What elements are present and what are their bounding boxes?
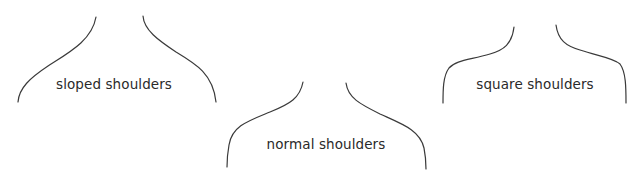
- sloped-shoulders-label: sloped shoulders: [56, 76, 172, 92]
- square-shoulders-label: square shoulders: [476, 76, 594, 92]
- normal-right-shoulder-curve: [346, 83, 426, 169]
- normal-shoulders-label: normal shoulders: [267, 136, 386, 152]
- shoulder-types-diagram: sloped shoulders normal shoulders square…: [0, 0, 640, 181]
- normal-shoulders-figure: [227, 82, 426, 169]
- normal-left-shoulder-curve: [227, 82, 303, 167]
